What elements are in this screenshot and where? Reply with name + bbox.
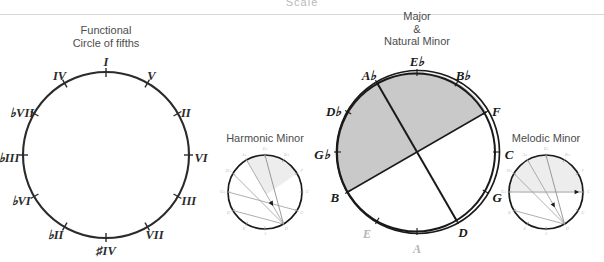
scale-degree-label: IV	[52, 69, 68, 83]
note-label: E	[241, 226, 245, 231]
note-label: G♭	[220, 189, 225, 194]
note-label: D♭	[506, 168, 512, 173]
interval-line	[233, 211, 284, 225]
note-label: A♭	[521, 152, 527, 157]
note-label: B	[227, 210, 230, 215]
note-label: A	[412, 242, 421, 256]
note-label: B♭	[565, 152, 570, 157]
functional-degree-labels: IVIIVIIIIVII♯IV♭II♭VI♭III♭VIIIV	[0, 55, 209, 258]
figure-canvas: Scale Functional Circle of fifths Major …	[0, 0, 604, 262]
note-label: A♭	[240, 152, 246, 157]
note-label: F	[300, 168, 304, 173]
harmonic-shaded-region	[247, 155, 298, 195]
note-label: E♭	[543, 146, 549, 151]
scale-degree-label: ♯IV	[95, 244, 117, 258]
scale-degree-label: II	[180, 106, 192, 120]
scale-degree-label: ♭III	[0, 151, 20, 165]
scale-degree-label: ♭II	[48, 228, 65, 242]
note-label: G♭	[501, 189, 506, 194]
scale-degree-label: V	[147, 69, 157, 83]
note-label: D	[284, 226, 288, 231]
note-label: D♭	[325, 104, 342, 119]
scale-degree-label: ♭VII	[10, 106, 35, 120]
harmonic-minor-group: E♭B♭FCGDAEBG♭D♭A♭	[220, 146, 309, 236]
functional-circle-outline	[23, 72, 189, 238]
note-label: A	[263, 231, 267, 236]
note-label: A	[544, 231, 548, 236]
functional-circle-group: IVIIVIIIIVII♯IV♭II♭VI♭III♭VIIIV	[0, 55, 209, 258]
note-label: D	[565, 226, 569, 231]
note-label: D♭	[225, 168, 231, 173]
scale-degree-label: ♭VI	[12, 194, 32, 208]
note-label: E	[522, 226, 526, 231]
melodic-shaded-region	[509, 155, 583, 194]
note-label: G	[300, 210, 303, 215]
functional-tick-marks	[19, 68, 193, 242]
note-label: B♭	[455, 68, 472, 83]
circle-of-fifths-diagram: IVIIVIIIIVII♯IV♭II♭VI♭III♭VIIIV E♭B♭FCGD…	[0, 0, 604, 262]
scale-degree-label: VI	[194, 151, 208, 165]
note-label: F	[581, 168, 585, 173]
note-label: G♭	[314, 147, 330, 162]
note-label: C	[505, 147, 514, 162]
scale-degree-label: VII	[145, 228, 164, 242]
note-label: D	[457, 225, 468, 240]
note-label: F	[491, 104, 501, 119]
note-label: E	[362, 227, 371, 241]
note-label: G	[581, 210, 584, 215]
scale-degree-label: I	[103, 55, 110, 69]
note-label: C	[306, 189, 309, 194]
interval-line	[514, 211, 565, 225]
note-label: E♭	[262, 146, 268, 151]
note-label: A♭	[361, 68, 378, 83]
major-minor-circle-group: E♭B♭FCGDAEBG♭D♭A♭	[314, 54, 513, 256]
note-label: B	[329, 190, 339, 205]
melodic-minor-group: E♭B♭FCGDAEBG♭D♭A♭	[501, 146, 590, 236]
note-label: B	[508, 210, 511, 215]
note-label: E♭	[409, 54, 426, 69]
scale-degree-label: III	[181, 194, 198, 208]
note-label: C	[587, 189, 590, 194]
interval-line	[228, 192, 297, 211]
note-label: B♭	[284, 152, 289, 157]
